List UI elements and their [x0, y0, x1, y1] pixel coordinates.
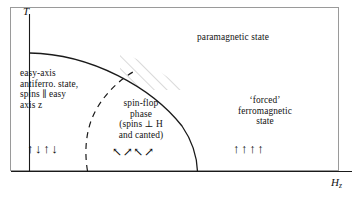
x-axis-label-subscript: z — [339, 181, 342, 190]
region-label-forced-ferromagnetic: ‘forced’ ferromagnetic state — [216, 95, 314, 127]
y-axis-label: T — [23, 5, 29, 17]
x-axis-label-base: H — [331, 176, 339, 188]
spin-arrows-antiferromagnetic: ↑↓↑↓ — [27, 142, 59, 155]
region-label-paramagnetic: paramagnetic state — [158, 32, 308, 43]
region-label-spin-flop: spin-flop phase (spins ⊥ H and canted) — [104, 98, 178, 140]
region-label-easy-axis-antiferro: easy-axis antiferro. state, spins ∥ easy… — [20, 68, 106, 110]
spin-arrows-spin-flop: ↖↗↖↗ — [112, 146, 155, 158]
spin-arrows-ferromagnetic: ↑↑↑↑ — [233, 142, 265, 155]
x-axis-label: Hz — [331, 176, 342, 190]
phase-diagram-figure: T Hz paramagnetic state easy-axis antife… — [0, 0, 359, 200]
